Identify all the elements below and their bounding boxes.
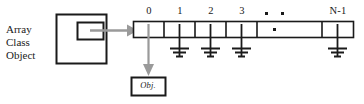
array-outline — [134, 22, 354, 38]
array-index-label-n-1: N-1 — [326, 6, 350, 17]
object-box-label: Obj. — [131, 81, 165, 90]
ellipsis-dot-inner — [273, 28, 276, 31]
array-class-object-label-line-3: Object — [6, 50, 35, 61]
array-index-label-3: 3 — [232, 6, 252, 17]
array-index-label-1: 1 — [170, 6, 190, 17]
array-class-object-label-line-1: Array — [6, 24, 32, 35]
array-index-label-0: 0 — [139, 6, 159, 17]
array-class-object-label-line-2: Class — [6, 37, 30, 48]
ellipsis-dot-top-left — [265, 12, 268, 15]
array-class-object-diagram: Array Class Object 0 1 2 3 N-1 Obj. — [0, 0, 364, 104]
array-index-label-2: 2 — [201, 6, 221, 17]
ellipsis-dot-top-right — [281, 12, 284, 15]
